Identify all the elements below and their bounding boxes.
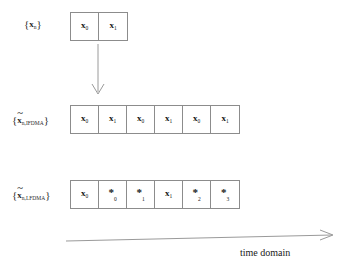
cell-value: *2 [192,187,200,200]
cell: *0 [99,181,127,208]
figure-canvas: {xn} x0 x1 {~xn,IFDMA} x0 x1 x0 x1 x0 [0,0,349,271]
cell-subscript: 1 [226,118,229,124]
brace-close: } [44,114,49,126]
cell-subscript: 0 [85,193,88,199]
box-row-ifdma-block: x0 x1 x0 x1 x0 x1 [70,105,240,134]
cell-subscript: 0 [85,25,88,31]
cell-value: x1 [109,114,116,125]
cell-subscript: 1 [169,193,172,199]
cell: x0 [71,181,99,208]
cell: x1 [155,181,183,208]
brace-close: } [37,18,42,30]
cell: x1 [99,13,127,40]
mapping-arrow-down-icon [90,44,120,98]
box-row-input-block: x0 x1 [70,12,128,41]
cell-subscript: 0 [141,118,144,124]
cell: x0 [71,13,99,40]
row-label-lfdma-block: {~xn,LFDMA} [12,190,50,202]
tilde-accent: ~ [17,185,23,193]
cell: x0 [127,106,155,133]
cell-value: x0 [81,114,88,125]
cell-subscript: 3 [226,196,229,202]
cell: x0 [183,106,211,133]
cell-subscript: 1 [169,118,172,124]
cell: *1 [127,181,155,208]
cell-value: x0 [193,114,200,125]
time-domain-axis-label: time domain [240,247,290,258]
box-row-lfdma-block: x0 *0 *1 x1 *2 *3 [70,180,240,209]
cell: *3 [211,181,239,208]
cell-value: *0 [108,187,116,200]
symbol-x-tilde: ~x [17,116,22,125]
cell-value: x0 [137,114,144,125]
symbol-base: x [29,19,34,29]
subscript: n,LFDMA [22,195,45,201]
cell-value: x0 [81,189,88,200]
cell: *2 [183,181,211,208]
row-label-input-block: {xn} [24,19,42,31]
symbol-x: x [29,20,34,29]
cell-value: x1 [109,21,116,32]
cell-value: x1 [221,114,228,125]
cell-subscript: 0 [197,118,200,124]
time-axis-arrow-right-icon [66,230,338,246]
row-label-ifdma-block: {~xn,IFDMA} [12,115,49,127]
subscript: n,IFDMA [22,120,44,126]
cell-value: *3 [221,187,229,200]
cell-value: x1 [165,114,172,125]
cell-value: x0 [81,21,88,32]
cell-subscript: 0 [85,118,88,124]
cell-value: *1 [136,187,144,200]
cell-subscript: 1 [114,25,117,31]
brace-close: } [45,189,50,201]
cell: x0 [71,106,99,133]
cell: x1 [99,106,127,133]
symbol-x-tilde: ~x [17,191,22,200]
cell-subscript: 1 [142,196,145,202]
cell-subscript: 0 [114,196,117,202]
cell-subscript: 1 [113,118,116,124]
tilde-accent: ~ [17,110,23,118]
cell-value: x1 [165,189,172,200]
cell: x1 [211,106,239,133]
cell-subscript: 2 [198,196,201,202]
cell: x1 [155,106,183,133]
